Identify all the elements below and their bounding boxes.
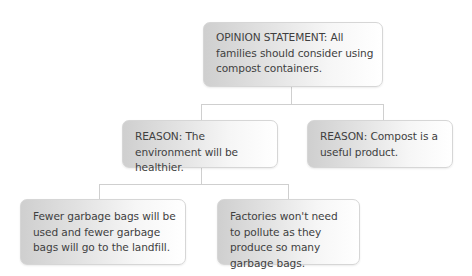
connector-details-horizontal — [99, 184, 289, 185]
connector-root-down — [291, 87, 292, 104]
opinion-statement-box: OPINION STATEMENT: All families should c… — [203, 22, 383, 87]
connector-detail1-up — [99, 184, 100, 199]
connector-detail2-up — [288, 184, 289, 199]
detail-box-fewer-bags: Fewer garbage bags will be used and fewe… — [20, 199, 186, 265]
reason-box-environment: REASON: The environment will be healthie… — [122, 120, 278, 168]
detail-box-factories: Factories won't need to pollute as they … — [217, 199, 360, 265]
opinion-statement-text: OPINION STATEMENT: All families should c… — [216, 31, 373, 74]
detail-text-factories: Factories won't need to pollute as they … — [230, 210, 338, 269]
reason-text-environment: REASON: The environment will be healthie… — [135, 130, 238, 173]
detail-text-fewer-bags: Fewer garbage bags will be used and fewe… — [33, 210, 176, 253]
connector-root-horizontal — [201, 104, 384, 105]
connector-reason1-down — [201, 168, 202, 184]
connector-reason1-up — [201, 104, 202, 120]
reason-box-compost-product: REASON: Compost is a useful product. — [307, 120, 453, 168]
reason-text-compost-product: REASON: Compost is a useful product. — [320, 130, 438, 158]
connector-reason2-up — [383, 104, 384, 120]
